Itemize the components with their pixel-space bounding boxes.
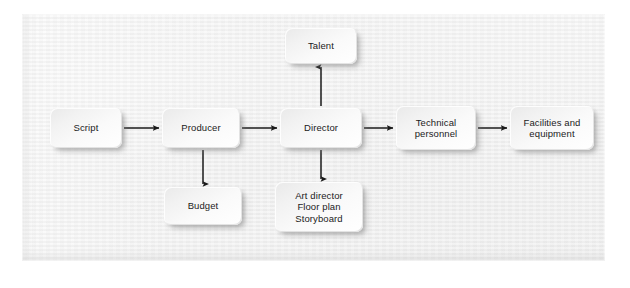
node-talent-label: Talent: [305, 40, 337, 52]
node-script[interactable]: Script: [50, 108, 122, 148]
node-director-label: Director: [301, 122, 341, 134]
figure-root: Script Producer Director Technical perso…: [0, 0, 630, 288]
node-technical-personnel-label: Technical personnel: [412, 117, 461, 140]
node-budget-label: Budget: [185, 200, 222, 212]
node-producer-label: Producer: [178, 122, 223, 134]
node-script-label: Script: [71, 122, 102, 134]
node-art-director-label: Art director Floor plan Storyboard: [292, 190, 346, 225]
node-producer[interactable]: Producer: [162, 108, 240, 148]
node-technical-personnel[interactable]: Technical personnel: [396, 106, 476, 150]
node-facilities-and-equipment-label: Facilities and equipment: [521, 117, 584, 140]
node-art-director[interactable]: Art director Floor plan Storyboard: [275, 182, 363, 232]
node-budget[interactable]: Budget: [164, 187, 242, 225]
node-director[interactable]: Director: [280, 108, 362, 148]
diagram-panel: Script Producer Director Technical perso…: [22, 14, 605, 261]
node-talent[interactable]: Talent: [285, 28, 357, 64]
node-facilities-and-equipment[interactable]: Facilities and equipment: [510, 106, 594, 150]
